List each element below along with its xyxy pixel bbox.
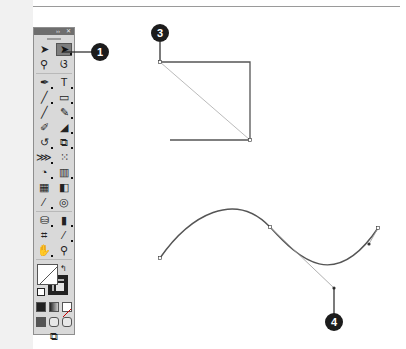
callout-1: 1: [91, 43, 109, 61]
anchor-point[interactable]: [377, 227, 380, 230]
direction-handle-line: [270, 227, 334, 288]
direction-handle-line: [160, 62, 250, 140]
s-curve-path[interactable]: [160, 209, 378, 265]
anchor-point[interactable]: [269, 226, 272, 229]
callout-4: 4: [325, 313, 343, 331]
anchor-point[interactable]: [159, 61, 162, 64]
anchor-point[interactable]: [249, 139, 252, 142]
anchor-point[interactable]: [159, 257, 162, 260]
artboard-canvas: [0, 0, 406, 349]
callout-3: 3: [151, 24, 169, 42]
direction-handle-line: [369, 228, 378, 244]
none-slash-icon: [38, 265, 58, 285]
fill-swatch[interactable]: [37, 264, 58, 285]
direction-point[interactable]: [367, 242, 370, 245]
